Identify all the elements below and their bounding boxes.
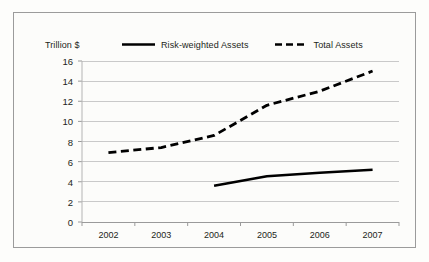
y-axis-title: Trillion $: [45, 40, 80, 50]
series-line: [108, 71, 372, 153]
dashed-line-swatch: [275, 39, 308, 50]
y-axis-tick-label: 12: [43, 96, 73, 107]
x-axis-tick-label: 2005: [257, 230, 277, 240]
x-axis-tick-label: 2004: [204, 230, 224, 240]
series-line: [214, 170, 373, 186]
x-axis-tick-label: 2002: [98, 230, 118, 240]
y-axis-tick-label: 10: [43, 116, 73, 127]
y-axis-tick-label: 0: [43, 217, 73, 228]
chart-legend: Risk-weighted Assets Total Assets: [122, 39, 363, 50]
x-axis-tick-label: 2003: [151, 230, 171, 240]
legend-label-risk-weighted-assets: Risk-weighted Assets: [161, 40, 249, 50]
y-axis-tick-label: 14: [43, 76, 73, 87]
x-axis-tick-label: 2006: [310, 230, 330, 240]
plot-area: 0246810121416 200220032004200520062007: [82, 61, 399, 222]
legend-item-risk-weighted-assets: Risk-weighted Assets: [122, 39, 249, 50]
chart-frame: Trillion $ Risk-weighted Assets Total As…: [13, 12, 416, 248]
y-axis-tick-label: 2: [43, 196, 73, 207]
gridlines: [78, 61, 399, 222]
y-axis-tick-label: 8: [43, 136, 73, 147]
solid-line-swatch: [122, 39, 155, 50]
x-axis-tick-label: 2007: [363, 230, 383, 240]
legend-item-total-assets: Total Assets: [275, 39, 363, 50]
legend-label-total-assets: Total Assets: [314, 40, 363, 50]
data-series-layer: [108, 71, 372, 186]
chart-figure: Trillion $ Risk-weighted Assets Total As…: [0, 0, 429, 262]
y-axis-tick-label: 6: [43, 156, 73, 167]
y-axis-tick-label: 16: [43, 56, 73, 67]
y-axis-tick-label: 4: [43, 176, 73, 187]
x-axis-ticks: [82, 222, 399, 226]
